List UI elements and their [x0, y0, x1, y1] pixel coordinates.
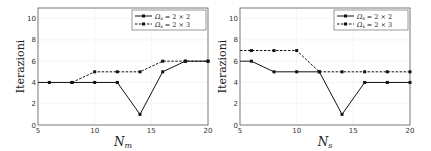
legend: Ωs = 2 × 2Ωs = 2 × 3 [132, 10, 206, 30]
legend-entry: Ωs = 2 × 3 [154, 21, 190, 30]
series-line [38, 61, 208, 114]
x-tick-label: 5 [238, 127, 242, 135]
x-tick-label: 20 [406, 127, 415, 135]
x-tick-label: 10 [292, 127, 301, 135]
right-chart: 51015200246810IterazioniNsΩs = 2 × 2Ωs =… [216, 8, 414, 150]
data-marker [93, 81, 96, 84]
x-axis-label: Ns [317, 135, 333, 150]
data-marker [318, 70, 321, 73]
data-marker [161, 70, 164, 73]
x-tick-label: 15 [147, 127, 156, 135]
y-tick-label: 8 [234, 36, 238, 44]
y-tick-label: 0 [234, 122, 238, 130]
y-tick-label: 10 [229, 15, 238, 23]
data-marker [363, 70, 366, 73]
data-marker [273, 70, 276, 73]
data-marker [250, 49, 253, 52]
data-marker [71, 81, 74, 84]
data-marker [139, 70, 142, 73]
left-chart: 51015200246810IterazioniNmΩs = 2 × 2Ωs =… [14, 8, 212, 150]
data-marker [409, 70, 412, 73]
data-marker [116, 81, 119, 84]
x-tick-label: 15 [349, 127, 358, 135]
y-tick-label: 2 [234, 100, 238, 108]
data-marker [93, 70, 96, 73]
y-tick-label: 6 [234, 58, 239, 66]
x-tick-label: 20 [204, 127, 213, 135]
data-marker [273, 49, 276, 52]
legend-entry: Ωs = 2 × 3 [356, 21, 392, 30]
chart-figure: 51015200246810IterazioniNmΩs = 2 × 2Ωs =… [0, 0, 431, 151]
y-axis-label: Iterazioni [216, 39, 229, 93]
x-axis-label: Nm [113, 135, 133, 150]
data-marker [116, 70, 119, 73]
data-marker [139, 113, 142, 116]
data-marker [48, 81, 51, 84]
data-marker [207, 60, 210, 63]
series-line [240, 61, 410, 114]
y-tick-label: 6 [32, 58, 37, 66]
data-marker [184, 60, 187, 63]
data-marker [409, 81, 412, 84]
x-tick-label: 10 [90, 127, 99, 135]
data-marker [161, 60, 164, 63]
y-tick-label: 4 [32, 79, 37, 87]
y-tick-label: 10 [27, 15, 36, 23]
data-marker [250, 60, 253, 63]
data-marker [295, 70, 298, 73]
data-marker [341, 113, 344, 116]
data-marker [341, 70, 344, 73]
y-axis-label: Iterazioni [14, 39, 27, 93]
legend: Ωs = 2 × 2Ωs = 2 × 3 [334, 10, 408, 30]
x-tick-label: 5 [36, 127, 40, 135]
data-marker [386, 81, 389, 84]
y-tick-label: 2 [32, 100, 36, 108]
data-marker [295, 49, 298, 52]
y-tick-label: 0 [32, 122, 36, 130]
y-tick-label: 4 [234, 79, 239, 87]
data-marker [386, 70, 389, 73]
y-tick-label: 8 [32, 36, 36, 44]
data-marker [363, 81, 366, 84]
